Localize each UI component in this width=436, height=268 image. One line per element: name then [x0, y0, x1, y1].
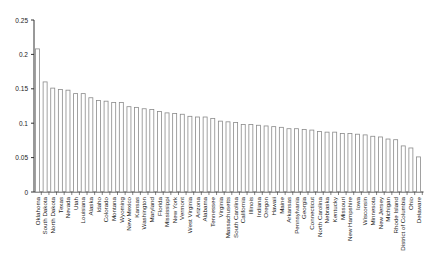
x-tick-label: Pennsylvania: [293, 196, 300, 233]
x-tick-label: Missouri: [339, 197, 346, 220]
x-tick-label: New York: [171, 196, 178, 223]
x-tick-label: North Carolina: [316, 196, 323, 236]
bar: [302, 129, 306, 192]
x-tick-label: Massachusetts: [224, 197, 231, 238]
x-tick-label: Tennessee: [209, 196, 216, 226]
x-tick-label: Wisconsin: [361, 196, 368, 225]
bar: [89, 98, 93, 192]
x-tick-label: Arkansas: [285, 197, 292, 223]
bar: [317, 131, 321, 192]
bar: [272, 127, 276, 192]
y-tick-label: 0.1: [19, 120, 28, 127]
x-tick-label: Louisiana: [79, 196, 86, 223]
x-tick-label: South Dakota: [41, 196, 48, 234]
x-tick-label: Vermont: [178, 197, 185, 220]
x-tick-label: Virginia: [217, 196, 224, 217]
bar: [363, 135, 367, 192]
bar: [226, 122, 230, 192]
x-tick-label: New Jersey: [377, 196, 384, 229]
x-tick-label: Illinois: [247, 197, 254, 214]
bar: [287, 129, 291, 192]
x-tick-label: Kansas: [133, 197, 140, 218]
bar: [356, 134, 360, 192]
x-tick-label: North Dakota: [49, 196, 56, 233]
bar: [51, 88, 55, 192]
x-tick-label: California: [239, 196, 246, 223]
bar: [150, 109, 154, 192]
x-tick-label: Montana: [110, 196, 117, 221]
bar: [43, 82, 47, 192]
bar: [112, 103, 116, 192]
bar: [142, 109, 146, 192]
x-tick-label: Colorado: [102, 196, 109, 222]
bar: [249, 125, 253, 192]
bar: [66, 90, 70, 192]
x-tick-label: Alabama: [201, 196, 208, 221]
bar: [218, 121, 222, 192]
x-tick-label: Oregon: [262, 196, 269, 217]
x-tick-label: Iowa: [354, 196, 361, 210]
y-tick-label: 0.15: [15, 85, 28, 92]
x-tick-label: West Virginia: [186, 196, 193, 233]
x-tick-label: Indiana: [255, 196, 262, 217]
y-tick-label: 0.05: [15, 154, 28, 161]
x-tick-label: Connecticut: [308, 197, 315, 230]
y-tick-label: 0: [24, 189, 28, 196]
chart-canvas: 00.050.10.150.20.25OklahomaSouth DakotaN…: [0, 0, 436, 268]
bar: [409, 148, 413, 192]
x-tick-label: New Mexico: [125, 196, 132, 230]
x-tick-label: Kentucky: [331, 196, 338, 222]
x-tick-label: Nevada: [64, 196, 71, 218]
x-tick-label: Arizona: [194, 196, 201, 218]
bar: [135, 107, 139, 192]
bar: [333, 132, 337, 192]
x-tick-label: Maryland: [148, 196, 155, 222]
x-tick-label: Idaho: [95, 196, 102, 212]
x-tick-label: District of Columbia: [399, 196, 406, 250]
x-tick-label: Maine: [278, 196, 285, 213]
x-tick-label: Wyoming: [118, 196, 125, 222]
bar: [157, 112, 161, 192]
x-tick-label: Alaska: [87, 196, 94, 215]
bar: [180, 114, 184, 192]
bar: [264, 126, 268, 192]
bar-chart: 00.050.10.150.20.25OklahomaSouth DakotaN…: [0, 0, 436, 268]
bar: [256, 125, 260, 192]
bar: [81, 94, 85, 192]
bar: [371, 136, 375, 192]
y-tick-label: 0.2: [19, 51, 28, 58]
bar: [340, 134, 344, 192]
bar: [386, 139, 390, 192]
x-tick-label: Florida: [156, 196, 163, 215]
x-tick-label: South Carolina: [232, 196, 239, 237]
x-tick-label: Delaware: [415, 196, 422, 223]
bar: [234, 123, 238, 192]
x-tick-label: Texas: [57, 197, 64, 213]
bar: [394, 140, 398, 192]
bar: [119, 103, 123, 192]
bar: [417, 157, 421, 192]
x-tick-label: Michigan: [384, 196, 391, 221]
bar: [36, 49, 40, 192]
bar: [74, 94, 78, 192]
bar: [378, 137, 382, 192]
bar: [295, 129, 299, 192]
x-tick-label: New Hampshire: [346, 196, 353, 241]
bar: [279, 127, 283, 192]
x-tick-label: Washington: [140, 196, 147, 229]
bar: [58, 89, 62, 192]
x-tick-label: Oklahoma: [34, 196, 41, 225]
bar: [203, 117, 207, 192]
y-tick-label: 0.25: [15, 17, 28, 24]
x-tick-label: Utah: [72, 196, 79, 210]
x-tick-label: Nebraska: [323, 196, 330, 223]
bar: [104, 101, 108, 192]
x-tick-label: Georgia: [300, 196, 307, 219]
bar: [348, 134, 352, 192]
bar: [127, 107, 131, 192]
bar: [310, 130, 314, 192]
x-tick-label: Rhode Island: [392, 196, 399, 233]
bar: [325, 132, 329, 192]
bar: [188, 116, 192, 192]
x-tick-label: Minnesota: [369, 196, 376, 225]
